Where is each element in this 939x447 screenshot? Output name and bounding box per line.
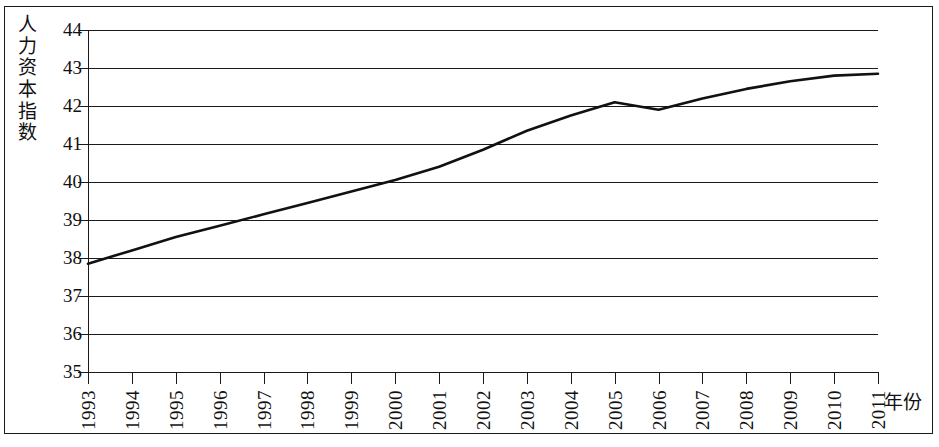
- x-tick-mark: [351, 372, 352, 384]
- y-axis-label-char: 本: [10, 79, 44, 101]
- y-axis-label-char: 资: [10, 57, 44, 79]
- x-tick-mark: [790, 372, 791, 384]
- x-tick-label: 2004: [561, 390, 583, 430]
- y-tick-mark: [78, 334, 88, 335]
- y-tick-mark: [78, 106, 88, 107]
- y-tick-mark: [78, 30, 88, 31]
- y-tick-mark: [78, 182, 88, 183]
- x-tick-mark: [132, 372, 133, 384]
- x-tick-mark: [264, 372, 265, 384]
- x-tick-mark: [615, 372, 616, 384]
- x-tick-label: 1994: [122, 390, 144, 430]
- y-axis-tick-marks: [78, 30, 88, 372]
- x-tick-mark: [483, 372, 484, 384]
- y-axis-label: 人力资本指数: [10, 14, 44, 144]
- series-polyline: [88, 74, 878, 264]
- x-tick-label: 2008: [736, 390, 758, 430]
- data-line-series: [88, 30, 878, 372]
- y-tick-mark: [78, 68, 88, 69]
- x-tick-mark: [659, 372, 660, 384]
- y-tick-mark: [78, 296, 88, 297]
- x-tick-mark: [878, 372, 879, 384]
- x-tick-mark: [395, 372, 396, 384]
- x-tick-mark: [746, 372, 747, 384]
- x-tick-label: 2002: [473, 390, 495, 430]
- y-axis-label-char: 力: [10, 36, 44, 58]
- y-tick-mark: [78, 258, 88, 259]
- x-tick-mark: [439, 372, 440, 384]
- x-tick-label: 1997: [254, 390, 276, 430]
- x-tick-label: 2000: [385, 390, 407, 430]
- y-tick-mark: [78, 220, 88, 221]
- x-tick-mark: [220, 372, 221, 384]
- x-tick-label: 1996: [210, 390, 232, 430]
- y-tick-mark: [78, 144, 88, 145]
- x-tick-mark: [307, 372, 308, 384]
- x-tick-label: 2009: [780, 390, 802, 430]
- x-tick-label: 1999: [341, 390, 363, 430]
- x-tick-label: 2006: [649, 390, 671, 430]
- x-tick-label: 1998: [297, 390, 319, 430]
- x-tick-mark: [527, 372, 528, 384]
- chart-figure: 人力资本指数 44434241403938373635 199319941995…: [0, 0, 939, 447]
- y-tick-mark: [78, 372, 88, 373]
- x-tick-label: 2001: [429, 390, 451, 430]
- x-tick-label: 2005: [605, 390, 627, 430]
- y-axis-label-char: 人: [10, 14, 44, 36]
- x-tick-mark: [702, 372, 703, 384]
- x-tick-label: 2003: [517, 390, 539, 430]
- x-axis-label: 年份: [884, 387, 922, 414]
- x-tick-label: 2010: [824, 390, 846, 430]
- y-axis-label-char: 指: [10, 101, 44, 123]
- y-axis-label-char: 数: [10, 122, 44, 144]
- x-tick-mark: [88, 372, 89, 384]
- x-tick-mark: [176, 372, 177, 384]
- x-tick-label: 1993: [78, 390, 100, 430]
- x-tick-label: 1995: [166, 390, 188, 430]
- x-tick-mark: [834, 372, 835, 384]
- x-tick-mark: [571, 372, 572, 384]
- x-tick-label: 2007: [692, 390, 714, 430]
